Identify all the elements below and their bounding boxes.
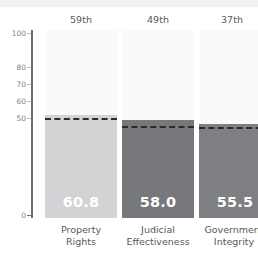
y-axis-line xyxy=(31,30,33,218)
bar-property-rights[interactable]: 60.8 xyxy=(45,115,117,218)
y-tick-mark-70 xyxy=(27,84,31,85)
rank-label-property-rights: 59th xyxy=(45,13,117,27)
bar-value-property-rights: 60.8 xyxy=(45,194,117,210)
bar-government-integrity[interactable]: 55.5 xyxy=(199,124,258,218)
y-tick-mark-100 xyxy=(27,33,31,34)
reference-line-judicial-effectiveness xyxy=(122,126,194,128)
rank-label-row: 59th 49th 37th xyxy=(0,13,258,29)
bar-value-judicial-effectiveness: 58.0 xyxy=(122,194,194,210)
bar-chart: 59th 49th 37th 100 80 70 60 50 0 60.8 58… xyxy=(0,0,258,260)
y-tick-mark-60 xyxy=(27,101,31,102)
rank-label-judicial-effectiveness: 49th xyxy=(122,13,194,27)
y-tick-label-60: 60 xyxy=(0,98,26,105)
y-tick-label-100: 100 xyxy=(0,30,26,37)
y-axis-base-mark xyxy=(27,215,33,216)
y-tick-label-0: 0 xyxy=(0,212,26,219)
plot-area: 100 80 70 60 50 0 60.8 58.0 55.5 xyxy=(0,30,258,218)
y-tick-label-50: 50 xyxy=(0,115,26,122)
category-label-government-integrity: Government Integrity xyxy=(191,224,258,247)
reference-line-government-integrity xyxy=(199,127,258,129)
bar-value-government-integrity: 55.5 xyxy=(199,194,258,210)
y-tick-label-80: 80 xyxy=(0,64,26,71)
reference-line-property-rights xyxy=(45,118,117,120)
y-tick-label-70: 70 xyxy=(0,81,26,88)
category-label-property-rights: Property Rights xyxy=(45,224,117,247)
y-tick-mark-50 xyxy=(27,118,31,119)
bar-judicial-effectiveness[interactable]: 58.0 xyxy=(122,120,194,218)
top-band xyxy=(0,0,258,7)
rank-label-government-integrity: 37th xyxy=(196,13,258,27)
y-tick-mark-80 xyxy=(27,67,31,68)
category-label-judicial-effectiveness: Judicial Effectiveness xyxy=(114,224,202,247)
